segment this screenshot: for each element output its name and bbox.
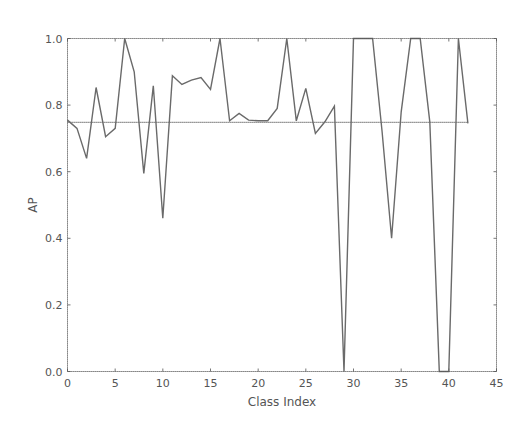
x-tick-label: 10 — [156, 377, 170, 390]
ap-series-line — [68, 39, 468, 372]
x-axis-label: Class Index — [248, 395, 316, 409]
y-axis-label: AP — [26, 197, 40, 212]
x-tick-label: 30 — [347, 377, 361, 390]
x-tick-label: 5 — [112, 377, 119, 390]
x-tick-label: 20 — [251, 377, 265, 390]
y-tick-label: 0.2 — [45, 299, 63, 312]
y-tick-label: 1.0 — [45, 33, 63, 46]
plot-frame — [68, 39, 497, 372]
x-tick-label: 0 — [64, 377, 71, 390]
y-tick-label: 0.8 — [45, 99, 63, 112]
x-tick-label: 45 — [490, 377, 504, 390]
y-tick-label: 0.0 — [45, 366, 63, 379]
y-tick-label: 0.6 — [45, 166, 63, 179]
y-axis-ticks: 0.00.20.40.60.81.0 — [45, 33, 497, 379]
ap-line-chart: 0.00.20.40.60.81.0 051015202530354045 Cl… — [0, 0, 531, 421]
x-tick-label: 25 — [299, 377, 313, 390]
y-tick-label: 0.4 — [45, 232, 63, 245]
x-tick-label: 35 — [394, 377, 408, 390]
x-tick-label: 15 — [204, 377, 218, 390]
x-tick-label: 40 — [442, 377, 456, 390]
